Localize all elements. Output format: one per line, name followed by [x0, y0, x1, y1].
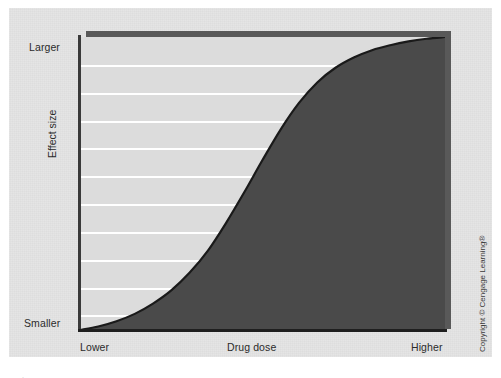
dose-response-curve [80, 37, 445, 330]
y-axis-label: Effect size [46, 110, 58, 158]
y-tick-label-top: Larger [29, 41, 60, 53]
x-tick-label-right: Higher [411, 341, 443, 353]
figure-container: · Larger Smaller Lower Drug dose Higher … [0, 0, 501, 378]
plot-area [80, 37, 445, 330]
copyright-notice: Copyright © Cengage Learning® [478, 236, 487, 352]
curve-area-fill [80, 37, 445, 330]
x-axis-spine [78, 329, 447, 332]
x-tick-label-left: Lower [80, 341, 109, 353]
corner-mark: · [22, 374, 24, 378]
y-axis-spine [78, 35, 81, 332]
x-axis-label: Drug dose [227, 341, 276, 353]
y-tick-label-bottom: Smaller [24, 317, 60, 329]
